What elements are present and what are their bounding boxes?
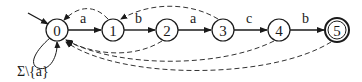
edge-2-to-0: [66, 40, 162, 53]
initial-state-arrow: [28, 13, 48, 24]
edge-0-1-label: a: [80, 11, 87, 26]
edge-4-5-label: b: [302, 11, 309, 26]
edge-5-to-0: [66, 42, 331, 71]
state-0: 0: [46, 19, 68, 41]
state-5-label: 5: [333, 23, 341, 39]
state-4-label: 4: [275, 23, 283, 39]
state-2-label: 2: [163, 23, 171, 39]
edge-1-2-label: b: [135, 11, 142, 26]
self-loop-label: Σ\{a}: [17, 64, 49, 79]
automaton-diagram: Σ\{a} a b a c b 0 1 2 3 4 5: [0, 0, 362, 82]
state-1: 1: [102, 19, 124, 41]
state-5-accepting: 5: [325, 18, 349, 42]
state-2: 2: [156, 19, 178, 41]
state-3: 3: [212, 19, 234, 41]
state-4: 4: [268, 19, 290, 41]
state-1-label: 1: [109, 23, 117, 39]
state-0-label: 0: [53, 23, 61, 39]
edge-3-4-label: c: [246, 11, 252, 26]
state-3-label: 3: [219, 23, 227, 39]
edge-2-3-label: a: [190, 11, 197, 26]
